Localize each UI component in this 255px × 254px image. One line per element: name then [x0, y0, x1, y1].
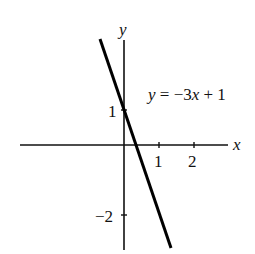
equation-y: y: [146, 85, 156, 104]
x-axis-label: x: [232, 135, 241, 154]
equation-tail: + 1: [199, 85, 226, 104]
y-tick-label-minus-2: −2: [95, 207, 113, 226]
equation-label: y = −3x + 1: [146, 85, 226, 104]
equation-mid: = −3: [156, 85, 192, 104]
x-tick-label-2: 2: [188, 152, 197, 171]
x-tick-label-1: 1: [154, 152, 163, 171]
graph: x y 1 2 1 −2 y = −3x + 1: [0, 0, 255, 254]
y-axis-label: y: [117, 20, 127, 39]
y-tick-label-1: 1: [108, 102, 117, 121]
